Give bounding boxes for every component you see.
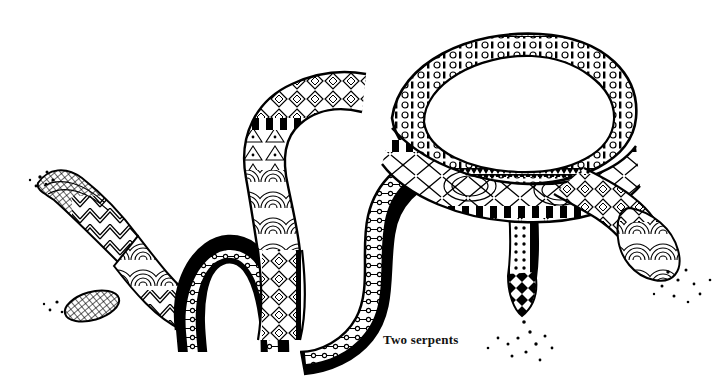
artwork-caption: Two serpents: [383, 332, 458, 348]
right-serpent-mid-column: [252, 244, 308, 346]
two-serpents-drawing: [0, 0, 718, 380]
illustration-page: Two serpents: [0, 0, 718, 380]
